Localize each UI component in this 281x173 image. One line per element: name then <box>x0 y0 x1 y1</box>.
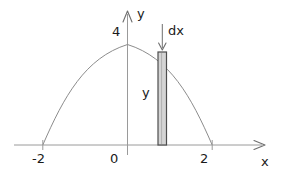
integration-strip <box>158 52 167 145</box>
y-axis <box>123 11 132 155</box>
dx-arrow-icon <box>159 24 166 50</box>
x-axis-label: x <box>261 155 269 168</box>
x-tick-label-0: 0 <box>110 152 118 165</box>
y-axis-label: y <box>137 7 145 20</box>
strip-height-label: y <box>142 86 150 99</box>
parabola-strip-diagram: y x 4 -2 0 2 dx y <box>0 0 281 173</box>
dx-annotation-label: dx <box>168 24 184 37</box>
x-tick-label-minus-2: -2 <box>32 152 45 165</box>
y-tick-label-4: 4 <box>112 25 120 38</box>
x-axis <box>14 141 265 150</box>
x-tick-label-2: 2 <box>200 152 208 165</box>
plot-canvas <box>0 0 281 173</box>
